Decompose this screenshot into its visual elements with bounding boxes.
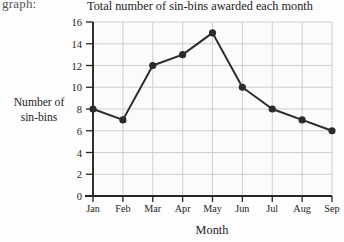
y-tick-label: 6 bbox=[60, 125, 82, 136]
data-point-apr bbox=[179, 51, 186, 58]
data-point-jul bbox=[269, 105, 276, 112]
data-point-sep bbox=[328, 127, 335, 134]
x-tick-label-sep: Sep bbox=[312, 203, 344, 214]
data-point-jan bbox=[89, 105, 96, 112]
y-tick-label: 0 bbox=[60, 191, 82, 202]
y-tick-label: 2 bbox=[60, 169, 82, 180]
data-point-aug bbox=[299, 116, 306, 123]
data-point-jun bbox=[239, 84, 246, 91]
y-tick-label: 14 bbox=[60, 38, 82, 49]
y-tick-label: 10 bbox=[60, 82, 82, 93]
y-tick-label: 4 bbox=[60, 147, 82, 158]
y-tick-label: 12 bbox=[60, 60, 82, 71]
y-tick-label: 16 bbox=[60, 17, 82, 28]
data-point-mar bbox=[149, 62, 156, 69]
y-tick-label: 8 bbox=[60, 104, 82, 115]
data-point-may bbox=[209, 29, 216, 36]
data-point-feb bbox=[119, 116, 126, 123]
